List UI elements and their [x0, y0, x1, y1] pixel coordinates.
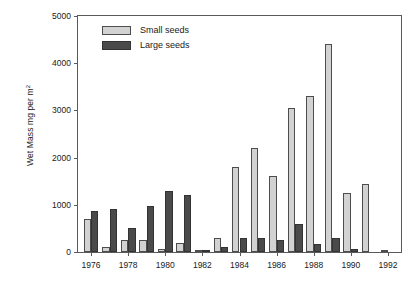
y-axis-title: Wet Mass mg per m2 [25, 25, 36, 225]
bar-large-seeds-1985 [258, 238, 265, 252]
bar-small-seeds-1987 [288, 108, 295, 252]
y-axis-tick [74, 158, 78, 159]
y-axis-title-superscript: 2 [25, 85, 31, 88]
bar-large-seeds-1988 [314, 244, 321, 252]
legend-swatch-small-seeds [102, 26, 131, 35]
bar-large-seeds-1984 [240, 238, 247, 252]
y-axis-tick-label: 5000 [52, 11, 71, 21]
bar-small-seeds-1980 [158, 249, 165, 252]
bar-large-seeds-1978 [128, 228, 135, 252]
bar-large-seeds-1986 [277, 240, 284, 252]
bar-large-seeds-1982 [202, 250, 209, 252]
x-axis-tick-label: 1986 [267, 260, 286, 270]
x-axis-tick-label: 1990 [341, 260, 360, 270]
bar-small-seeds-1977 [102, 247, 109, 252]
y-axis-tick-label: 1000 [52, 200, 71, 210]
bar-small-seeds-1982 [195, 250, 202, 252]
bar-small-seeds-1983 [214, 238, 221, 252]
y-axis-tick [74, 252, 78, 253]
x-axis-tick-label: 1984 [230, 260, 249, 270]
x-axis-tick [91, 252, 92, 256]
bar-small-seeds-1992 [381, 250, 388, 252]
x-axis-tick [165, 252, 166, 256]
bar-large-seeds-1983 [221, 247, 228, 252]
x-axis-tick [128, 252, 129, 256]
bar-small-seeds-1981 [176, 243, 183, 252]
x-axis-tick [202, 252, 203, 256]
y-axis-tick [74, 110, 78, 111]
x-axis-tick [388, 252, 389, 256]
y-axis-tick [74, 16, 78, 17]
y-axis-tick-label: 2000 [52, 153, 71, 163]
bar-large-seeds-1976 [91, 211, 98, 252]
bar-small-seeds-1989 [325, 44, 332, 252]
y-axis-tick [74, 63, 78, 64]
bar-small-seeds-1985 [251, 148, 258, 252]
x-axis-tick [314, 252, 315, 256]
x-axis-tick-label: 1982 [193, 260, 212, 270]
x-axis-tick-label: 1976 [82, 260, 101, 270]
bar-small-seeds-1976 [84, 219, 91, 252]
bar-large-seeds-1990 [351, 249, 358, 252]
x-axis-tick-label: 1978 [119, 260, 138, 270]
x-axis-tick [351, 252, 352, 256]
bar-small-seeds-1988 [306, 96, 313, 252]
y-axis-title-text: Wet Mass mg per m [25, 88, 35, 166]
legend-label-small-seeds: Small seeds [140, 25, 189, 35]
legend-item-large-seeds: Large seeds [102, 40, 190, 50]
y-axis-tick-label: 0 [66, 247, 71, 257]
bar-large-seeds-1989 [332, 238, 339, 252]
legend-label-large-seeds: Large seeds [140, 40, 190, 50]
bar-small-seeds-1991 [362, 184, 369, 252]
x-axis-tick-label: 1988 [304, 260, 323, 270]
bar-small-seeds-1984 [232, 167, 239, 252]
y-axis-tick [74, 205, 78, 206]
bar-small-seeds-1986 [269, 176, 276, 252]
seed-mass-bar-chart: Wet Mass mg per m2 010002000300040005000… [0, 0, 414, 283]
bar-large-seeds-1979 [147, 206, 154, 252]
bar-large-seeds-1981 [184, 195, 191, 252]
legend-item-small-seeds: Small seeds [102, 25, 190, 35]
x-axis-tick [240, 252, 241, 256]
y-axis-tick-label: 3000 [52, 105, 71, 115]
plot-area: 010002000300040005000 197619781980198219… [77, 15, 402, 253]
x-axis-tick-label: 1992 [379, 260, 398, 270]
x-axis-tick-label: 1980 [156, 260, 175, 270]
y-axis-tick-label: 4000 [52, 58, 71, 68]
bar-large-seeds-1980 [165, 191, 172, 252]
bar-large-seeds-1977 [110, 209, 117, 252]
legend-swatch-large-seeds [102, 41, 131, 50]
chart-legend: Small seeds Large seeds [102, 25, 190, 55]
bar-small-seeds-1978 [121, 240, 128, 252]
bar-small-seeds-1979 [139, 240, 146, 253]
x-axis-tick [277, 252, 278, 256]
bar-small-seeds-1990 [343, 193, 350, 252]
bar-large-seeds-1987 [295, 224, 302, 252]
